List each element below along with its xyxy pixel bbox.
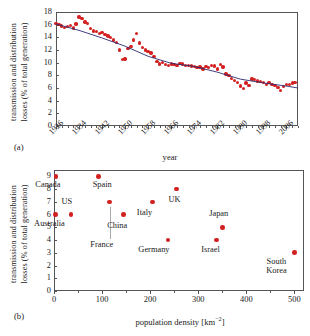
panel-b-point-label-line: Korea [266, 266, 286, 276]
panel-b-x-tickmark [102, 291, 103, 294]
panel-b-point-label: Italy [137, 208, 152, 217]
panel-b-point-label-line: Israel [201, 245, 220, 254]
panel-b-x-tickmark [150, 291, 151, 294]
panel-b-y-tickmark [54, 253, 57, 254]
panel-b-x-tickmark [246, 291, 247, 294]
panel-b-point-label: Australia [34, 219, 65, 228]
panel-a-trend-path [56, 24, 298, 88]
panel-b-y-tick-label: 2 [35, 261, 51, 270]
panel-b-y-tick-label: 9 [35, 171, 51, 180]
panel-b-data-point [54, 174, 59, 179]
panel-b-data-point [220, 225, 225, 230]
panel-b-y-axis-label-line1: transmission and distribution [9, 171, 18, 297]
panel-b-y-axis-label: transmission and distribution [9, 171, 18, 297]
panel-b-point-label-line: UK [169, 195, 181, 204]
panel-b-data-point [107, 200, 112, 205]
panel-b-x-tick-label: 100 [90, 295, 114, 304]
panel-b-x-minor-tickmark [78, 291, 79, 293]
panel-b-x-minor-tickmark [270, 291, 271, 293]
panel-b-tag: (b) [14, 311, 24, 321]
panel-b-point-label-line: Australia [34, 219, 65, 228]
panel-b: transmission and distribution losses (% … [0, 165, 310, 336]
panel-a: transmission and distribution losses (% … [0, 0, 310, 165]
panel-b-point-label: UK [169, 195, 181, 204]
panel-b-point-label-line: Japan [209, 209, 228, 218]
panel-b-point-label: France [90, 240, 113, 249]
panel-b-x-axis-label: population density [km−2] [105, 315, 255, 327]
panel-b-x-tick-label: 300 [186, 295, 210, 304]
panel-b-x-tickmark [54, 291, 55, 294]
panel-b-y-tickmark [54, 240, 57, 241]
panel-b-point-label-line: China [107, 221, 127, 230]
panel-b-data-point [150, 200, 155, 205]
panel-a-tag: (a) [14, 142, 24, 152]
panel-b-y-axis-label-2: losses (% of total generation) [20, 171, 29, 297]
panel-b-point-label-line: Canada [35, 180, 60, 189]
panel-a-x-axis-label: year [140, 152, 200, 162]
panel-b-y-tickmark [54, 202, 57, 203]
panel-b-point-label: US [61, 197, 72, 206]
panel-b-point-label-line: South [266, 257, 286, 267]
panel-b-point-label: SouthKorea [266, 257, 286, 276]
panel-b-y-tick-label: 4 [35, 235, 51, 244]
panel-b-data-point [214, 238, 219, 243]
panel-b-point-label: Japan [209, 209, 228, 218]
panel-b-y-tick-label: 1 [35, 273, 51, 282]
panel-b-x-minor-tickmark [222, 291, 223, 293]
panel-b-point-label: Israel [201, 245, 220, 254]
panel-b-x-axis-label-text: population density [km [135, 317, 215, 327]
panel-b-y-tick-label: 3 [35, 248, 51, 257]
panel-b-data-point [121, 212, 126, 217]
panel-a-trendline [0, 0, 310, 165]
panel-b-x-axis-label-exponent: −2 [215, 315, 222, 322]
panel-b-point-label-line: US [61, 197, 72, 206]
panel-b-y-tickmark [54, 266, 57, 267]
panel-b-point-label: China [107, 221, 127, 230]
panel-b-y-tick-label: 7 [35, 197, 51, 206]
panel-b-point-label: Canada [35, 180, 60, 189]
panel-b-y-tick-label: 6 [35, 210, 51, 219]
panel-b-y-tickmark [54, 278, 57, 279]
panel-b-point-label-line: France [90, 240, 113, 249]
panel-b-x-axis-label-tail: ] [222, 317, 225, 327]
panel-b-point-label-line: Spain [93, 180, 112, 189]
panel-b-data-point [53, 212, 58, 217]
panel-b-x-tick-label: 200 [138, 295, 162, 304]
panel-b-y-axis-label-line2: losses (% of total generation) [20, 171, 29, 297]
panel-b-x-tickmark [294, 291, 295, 294]
panel-b-point-label: Germany [138, 245, 169, 254]
panel-b-point-label: Spain [93, 180, 112, 189]
panel-b-data-point [69, 212, 74, 217]
panel-b-x-tickmark [198, 291, 199, 294]
panel-b-data-point [292, 250, 297, 255]
panel-b-x-tick-label: 400 [234, 295, 258, 304]
panel-b-x-minor-tickmark [126, 291, 127, 293]
panel-b-x-minor-tickmark [174, 291, 175, 293]
panel-b-x-tick-label: 0 [42, 295, 66, 304]
panel-b-y-tick-label: 0 [35, 286, 51, 295]
panel-b-x-tick-label: 500 [282, 295, 306, 304]
panel-b-point-label-line: Italy [137, 208, 152, 217]
panel-b-point-label-line: Germany [138, 245, 169, 254]
panel-b-data-point [96, 174, 101, 179]
figure-container: transmission and distribution losses (% … [0, 0, 310, 336]
